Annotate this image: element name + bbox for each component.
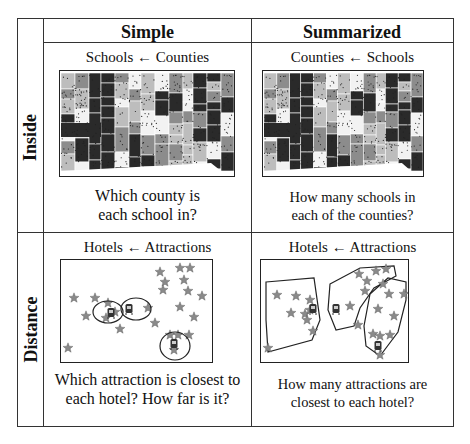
cell-inside-summarized: Counties ← Schools How many schools in e… — [252, 43, 453, 232]
star-icon — [183, 286, 193, 295]
star-icon — [360, 286, 370, 295]
row-header-inside: Inside — [18, 43, 44, 232]
star-icon — [81, 311, 91, 320]
star-icon — [399, 289, 408, 298]
star-icon — [272, 290, 282, 299]
star-icon — [184, 330, 194, 339]
star-icon — [384, 289, 394, 298]
cell-inside-simple: Schools ← Counties Which county is each … — [44, 43, 251, 232]
star-icon — [291, 291, 301, 300]
star-icon — [286, 308, 296, 317]
points-plot — [262, 260, 408, 361]
star-icon — [179, 275, 189, 284]
hotels-attractions-regions-figure — [260, 259, 409, 363]
star-icon — [175, 263, 185, 272]
star-icon — [308, 326, 318, 335]
star-icon — [345, 301, 355, 310]
caption: Hotels ← Attractions — [252, 239, 453, 256]
star-icon — [158, 285, 168, 294]
star-icon — [189, 312, 199, 321]
caption: Hotels ← Attractions — [44, 239, 251, 256]
hotel-icon — [374, 341, 381, 352]
star-icon — [115, 324, 125, 333]
cell-distance-simple: Hotels ← Attractions Which attraction is… — [44, 233, 251, 425]
question: How many schools in each of the counties… — [252, 188, 453, 224]
caption: Schools ← Counties — [44, 49, 251, 66]
star-icon — [389, 311, 399, 320]
star-icon — [175, 302, 185, 311]
hotel-icon — [332, 304, 339, 315]
cell-distance-summarized: Hotels ← Attractions How many attraction… — [252, 233, 453, 425]
question: Which county is each school in? — [44, 186, 251, 224]
hotel-icon — [125, 304, 132, 315]
star-icon — [63, 343, 73, 352]
column-header-summarized: Summarized — [252, 19, 452, 43]
question: How many attractions are closest to each… — [252, 375, 453, 411]
row-header-distance: Distance — [18, 233, 44, 425]
star-icon — [150, 318, 160, 327]
star-icon — [197, 291, 207, 300]
star-icon — [362, 276, 372, 285]
column-header-simple: Simple — [44, 19, 251, 43]
star-icon — [103, 298, 113, 307]
star-icon — [353, 320, 363, 329]
star-icon — [160, 277, 170, 286]
hotels-attractions-figure — [60, 259, 213, 363]
comparison-table: Simple Summarized Inside Distance School… — [17, 18, 454, 427]
county-map-icon — [264, 71, 423, 175]
star-icon — [368, 329, 378, 338]
star-icon — [381, 264, 391, 273]
star-icon — [185, 263, 195, 272]
star-icon — [69, 293, 79, 302]
county-map-icon — [61, 71, 234, 175]
star-icon — [90, 293, 100, 302]
star-icon — [378, 279, 388, 288]
star-icon — [173, 330, 183, 339]
points-plot — [62, 260, 212, 361]
county-map-figure — [59, 70, 235, 177]
star-icon — [155, 267, 165, 276]
star-icon — [373, 304, 383, 313]
caption: Counties ← Schools — [252, 49, 453, 66]
question: Which attraction is closest to each hote… — [44, 370, 251, 408]
county-map-figure — [262, 70, 424, 177]
star-icon — [305, 295, 315, 304]
